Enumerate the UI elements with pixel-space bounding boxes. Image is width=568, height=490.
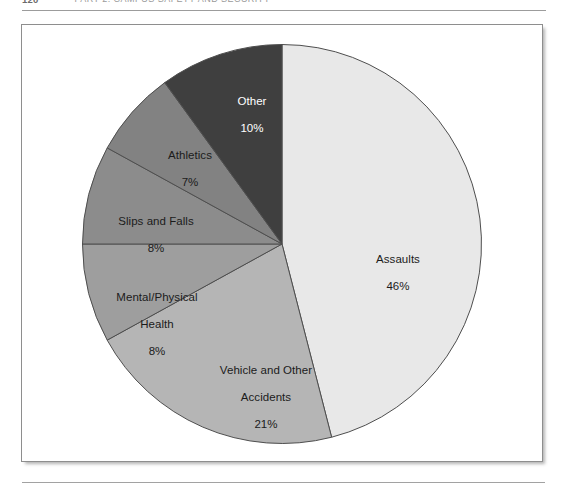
pie-slice-label-vehicle-name-line2: Accidents — [190, 391, 342, 405]
pie-slice-label-other-value: 10% — [196, 122, 308, 136]
running-head: 120 PART 2: CAMPUS SAFETY AND SECURITY — [22, 0, 546, 6]
pie-slice-label-mental-name-line2: Health — [86, 318, 228, 332]
pie-slice-label-slips-and-falls: Slips and Falls 8% — [88, 201, 224, 269]
pie-slice-label-assaults-value: 46% — [338, 280, 458, 294]
header-rule — [22, 10, 546, 11]
pie-slice-label-slips-value: 8% — [88, 242, 224, 256]
running-head-title: PART 2: CAMPUS SAFETY AND SECURITY — [74, 0, 270, 4]
pie-slice-label-mental-value: 8% — [86, 345, 228, 359]
pie-slice-label-athletics-name: Athletics — [128, 149, 252, 163]
pie-slice-label-mental-name-line1: Mental/Physical — [86, 291, 228, 305]
figure-frame: Assaults 46% Vehicle and Other Accidents… — [21, 24, 543, 462]
pie-slice-label-vehicle-value: 21% — [190, 418, 342, 432]
pie-slice-label-other-name: Other — [196, 95, 308, 109]
figure-page: 120 PART 2: CAMPUS SAFETY AND SECURITY A… — [0, 0, 568, 490]
pie-slice-label-slips-name: Slips and Falls — [88, 215, 224, 229]
footer-rule — [22, 482, 545, 483]
pie-slice-label-athletics-value: 7% — [128, 176, 252, 190]
page-number: 120 — [22, 0, 38, 5]
pie-slice-label-mental-physical-health: Mental/Physical Health 8% — [86, 277, 228, 372]
pie-chart: Assaults 46% Vehicle and Other Accidents… — [22, 25, 544, 463]
running-head-strip: 120 PART 2: CAMPUS SAFETY AND SECURITY — [0, 0, 568, 7]
pie-slice-label-other: Other 10% — [196, 81, 308, 149]
pie-slice-label-assaults: Assaults 46% — [338, 239, 458, 307]
pie-slice-label-assaults-name: Assaults — [338, 253, 458, 267]
